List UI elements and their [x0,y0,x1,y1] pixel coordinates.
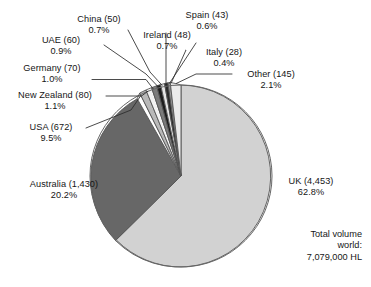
total-volume-line-3: 7,079,000 HL [258,252,362,263]
slice-label-uk: UK (4,453) 62.8% [274,176,348,197]
slice-label-australia-value: Australia (1,430) [18,179,110,190]
slice-label-germany-value: Germany (70) [12,63,92,74]
slice-label-italy: Italy (28) 0.4% [194,47,254,68]
slice-label-spain: Spain (43) 0.6% [177,10,237,31]
slice-label-uae: UAE (60) 0.9% [30,35,92,56]
slice-label-china-value: China (50) [66,14,132,25]
slice-label-usa-percent: 9.5% [18,133,84,144]
slice-label-spain-value: Spain (43) [177,10,237,21]
slice-label-uae-value: UAE (60) [30,35,92,46]
total-volume-note: Total volume world: 7,079,000 HL [258,229,362,263]
leader-line-italy [171,50,186,83]
slice-label-uk-percent: 62.8% [274,187,348,198]
slice-label-new-zealand-percent: 1.1% [5,101,105,112]
slice-label-ireland-percent: 0.7% [131,41,203,52]
slice-label-other: Other (145) 2.1% [233,69,309,90]
slice-label-new-zealand: New Zealand (80) 1.1% [5,90,105,111]
slice-label-italy-value: Italy (28) [194,47,254,58]
slice-label-australia-percent: 20.2% [18,190,110,201]
slice-label-ireland-value: Ireland (48) [131,30,203,41]
slice-label-italy-percent: 0.4% [194,58,254,69]
slice-label-usa: USA (672) 9.5% [18,122,84,143]
slice-label-other-percent: 2.1% [233,80,309,91]
slice-label-other-value: Other (145) [233,69,309,80]
slice-label-uae-percent: 0.9% [30,46,92,57]
slice-label-uk-value: UK (4,453) [274,176,348,187]
slice-label-new-zealand-value: New Zealand (80) [5,90,105,101]
slice-label-china-percent: 0.7% [66,25,132,36]
slice-label-germany-percent: 1.0% [12,74,92,85]
total-volume-line-1: Total volume [258,229,362,240]
leader-line-uae [104,45,158,87]
slice-label-germany: Germany (70) 1.0% [12,63,92,84]
pie-chart-figure: Spain (43) 0.6% China (50) 0.7% Ireland … [0,0,371,287]
slice-label-ireland: Ireland (48) 0.7% [131,30,203,51]
leader-line-other [176,74,232,84]
leader-line-germany [92,80,153,89]
slice-label-china: China (50) 0.7% [66,14,132,35]
total-volume-line-2: world: [258,240,362,251]
slice-label-usa-value: USA (672) [18,122,84,133]
slice-label-australia: Australia (1,430) 20.2% [18,179,110,200]
